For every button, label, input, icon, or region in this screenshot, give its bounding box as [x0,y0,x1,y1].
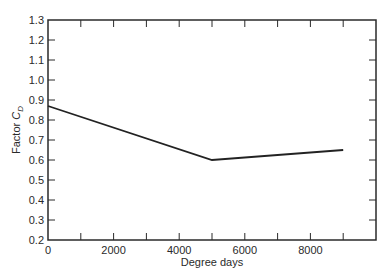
y-tick-label: 0.7 [29,134,44,146]
y-tick-label: 0.9 [29,94,44,106]
plot-border [48,20,376,240]
y-tick-labels: 0.20.30.40.50.60.70.80.91.01.11.21.3 [29,14,44,246]
x-tick-label: 8000 [298,244,322,256]
y-tick-label: 1.0 [29,74,44,86]
y-tick-label: 1.3 [29,14,44,26]
y-tick-label: 1.2 [29,34,44,46]
x-tick-label: 0 [45,244,51,256]
x-tick-label: 2000 [101,244,125,256]
x-tick-label: 6000 [233,244,257,256]
y-tick-label: 0.3 [29,214,44,226]
y-tick-label: 0.2 [29,234,44,246]
series-line [48,106,343,160]
plot-frame [48,20,376,240]
y-axis-label: Factor CD [10,106,25,154]
x-tick-label: 4000 [167,244,191,256]
y-tick-label: 0.6 [29,154,44,166]
x-tick-labels: 02000400060008000 [45,244,323,256]
x-axis-label: Degree days [181,256,244,268]
line-chart: 0.20.30.40.50.60.70.80.91.01.11.21.3 020… [0,0,389,278]
y-tick-label: 0.4 [29,194,44,206]
y-tick-label: 0.8 [29,114,44,126]
data-series [48,106,343,160]
axis-ticks [48,20,376,240]
y-tick-label: 0.5 [29,174,44,186]
y-tick-label: 1.1 [29,54,44,66]
